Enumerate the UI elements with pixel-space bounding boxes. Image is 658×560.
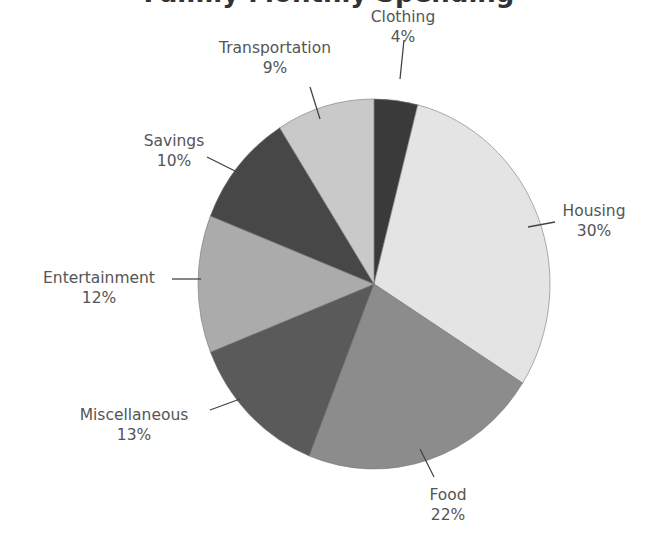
leader-line-miscellaneous <box>210 399 240 410</box>
label-savings: Savings 10% <box>144 131 205 171</box>
label-miscellaneous-pct: 13% <box>80 425 189 445</box>
label-housing-pct: 30% <box>562 221 625 241</box>
label-transportation-name: Transportation <box>219 38 331 58</box>
label-miscellaneous: Miscellaneous 13% <box>80 405 189 445</box>
label-housing-name: Housing <box>562 201 625 221</box>
label-housing: Housing 30% <box>562 201 625 241</box>
label-entertainment: Entertainment 12% <box>43 268 155 308</box>
label-food-pct: 22% <box>429 505 466 525</box>
leader-line-savings <box>207 157 235 171</box>
label-food-name: Food <box>429 485 466 505</box>
label-savings-name: Savings <box>144 131 205 151</box>
label-clothing-pct: 4% <box>371 27 435 47</box>
label-miscellaneous-name: Miscellaneous <box>80 405 189 425</box>
label-savings-pct: 10% <box>144 151 205 171</box>
label-food: Food 22% <box>429 485 466 525</box>
label-entertainment-pct: 12% <box>43 288 155 308</box>
label-entertainment-name: Entertainment <box>43 268 155 288</box>
label-transportation: Transportation 9% <box>219 38 331 78</box>
label-clothing-name: Clothing <box>371 7 435 27</box>
pie-slices <box>198 99 550 469</box>
label-transportation-pct: 9% <box>219 58 331 78</box>
label-clothing: Clothing 4% <box>371 7 435 47</box>
